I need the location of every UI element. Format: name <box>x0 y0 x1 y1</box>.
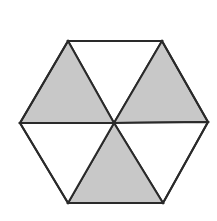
hexagon-figure <box>0 0 217 221</box>
figure-canvas <box>0 0 217 221</box>
